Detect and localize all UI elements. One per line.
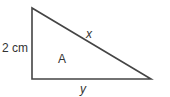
base-label: y bbox=[79, 82, 87, 96]
hypotenuse-label: x bbox=[85, 27, 93, 41]
triangle-diagram: 2 cm x A y bbox=[0, 0, 170, 97]
right-triangle bbox=[32, 8, 151, 79]
area-label: A bbox=[58, 52, 66, 66]
left-side-label: 2 cm bbox=[2, 41, 28, 55]
